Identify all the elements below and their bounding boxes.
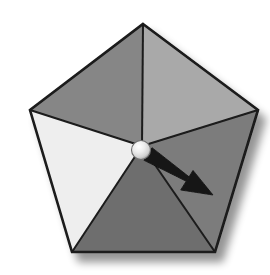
spinner-figure — [0, 0, 270, 275]
spinner-canvas — [0, 0, 270, 275]
pentagon-body — [30, 24, 258, 252]
